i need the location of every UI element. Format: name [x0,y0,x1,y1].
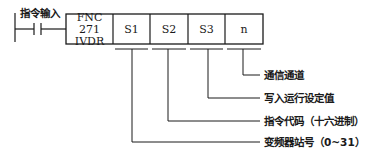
operand-s2: S2 [150,15,188,44]
operand-s1: S1 [113,15,150,44]
annotation-s2: 指令代码（十六进制） [264,115,364,127]
operand-s3: S3 [188,15,225,44]
function-cell: FNC 271 IVDR [66,15,113,44]
operand-n: n [225,15,263,44]
annotation-s3: 写入运行设定值 [264,92,334,104]
input-contact-label: 指令输入 [20,5,60,20]
function-code: FNC 271 [66,12,113,36]
annotation-s1: 变频器站号（0~31） [264,136,365,148]
annotation-n: 通信通道 [264,69,304,81]
mnemonic: IVDR [75,36,104,48]
